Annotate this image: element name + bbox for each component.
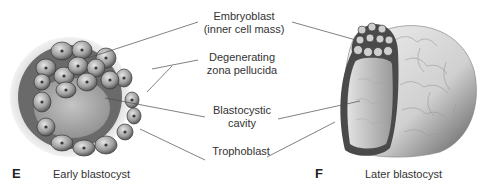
label-zona-pellucida: Degenerating zona pellucida [207,51,277,77]
label-cavity-line2: cavity [213,117,271,130]
label-zona-line2: zona pellucida [207,64,277,77]
label-zona-line1: Degenerating [207,51,277,64]
label-blastocystic-cavity: Blastocystic cavity [213,104,271,130]
panel-letter-f: F [315,166,323,181]
label-trophoblast: Trophoblast [212,145,270,158]
label-embryoblast-line2: (inner cell mass) [204,23,285,36]
label-embryoblast: Embryoblast (inner cell mass) [204,10,285,36]
caption-later-blastocyst: Later blastocyst [365,168,442,180]
label-embryoblast-line1: Embryoblast [204,10,285,23]
label-trophoblast-line1: Trophoblast [212,145,270,158]
early-blastocyst-drawing [10,37,141,157]
caption-early-blastocyst: Early blastocyst [53,168,130,180]
panel-letter-e: E [12,166,21,181]
label-cavity-line1: Blastocystic [213,104,271,117]
later-blastocyst-drawing [340,23,476,157]
